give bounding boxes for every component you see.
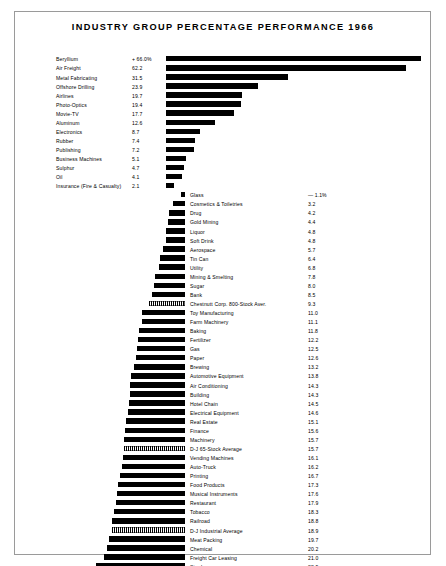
- bar-value-label: 7.8: [308, 273, 315, 281]
- chart-bar: [166, 156, 186, 161]
- bar-value-label: 7.4: [132, 137, 139, 145]
- chart-bar: [152, 292, 185, 297]
- chart-row: Chemical20.2: [0, 544, 446, 553]
- chart-row: Freight Car Leasing21.0: [0, 553, 446, 562]
- chart-bar: [123, 455, 185, 460]
- chart-row: Paper12.6: [0, 354, 446, 363]
- chart-row: Air Freight62.2: [0, 64, 446, 73]
- chart-bar: [124, 437, 185, 442]
- bar-category-label: Railroad: [190, 517, 210, 525]
- bar-value-label: 15.6: [308, 427, 318, 435]
- chart-row: Tin Can6.4: [0, 254, 446, 263]
- bar-category-label: Cosmetics & Toiletries: [190, 200, 243, 208]
- chart-row: Electronics8.7: [0, 127, 446, 136]
- bar-category-label: Hotel Chain: [190, 400, 218, 408]
- chart-row: Finance15.6: [0, 426, 446, 435]
- chart-row: Bank8.5: [0, 291, 446, 300]
- chart-bar: [149, 301, 185, 306]
- bar-category-label: Vending Machines: [190, 454, 234, 462]
- bar-value-label: 15.7: [308, 436, 318, 444]
- chart-bar: [114, 509, 185, 514]
- chart-row: Glass— 1.1%: [0, 191, 446, 200]
- chart-bar: [104, 554, 185, 559]
- chart-bar: [128, 409, 185, 414]
- bar-category-label: Gas: [190, 345, 200, 353]
- chart-bar: [116, 500, 185, 505]
- chart-row: Brewing13.2: [0, 363, 446, 372]
- bar-category-label: Restaurant: [190, 499, 216, 507]
- bar-value-label: 21.0: [308, 554, 318, 562]
- chart-bar: [166, 110, 234, 115]
- chart-row: Building14.3: [0, 390, 446, 399]
- bar-category-label: Glass: [190, 191, 204, 199]
- bar-value-label: 8.0: [308, 282, 315, 290]
- chart-bar: [173, 201, 185, 206]
- bar-category-label: Toy Manufacturing: [190, 309, 234, 317]
- bar-value-label: 8.7: [132, 128, 139, 136]
- chart-bar: [109, 536, 185, 541]
- chart-row: Food Products17.3: [0, 481, 446, 490]
- bar-value-label: 12.5: [308, 345, 318, 353]
- chart-bar: [137, 346, 185, 351]
- bar-category-label: Electronics: [56, 128, 82, 136]
- bar-value-label: 20.2: [308, 545, 318, 553]
- bar-category-label: Chestnutt Corp. 800-Stock Aver.: [190, 300, 266, 308]
- chart-bar: [169, 210, 185, 215]
- bar-category-label: Automotive Equipment: [190, 372, 244, 380]
- chart-bar: [166, 120, 215, 125]
- chart-row: Gas12.5: [0, 345, 446, 354]
- chart-row: Vending Machines16.1: [0, 454, 446, 463]
- bar-value-label: 18.9: [308, 527, 318, 535]
- chart-bar: [118, 482, 185, 487]
- bar-value-label: 4.7: [132, 164, 139, 172]
- chart-bar: [129, 400, 185, 405]
- chart-bar: [122, 464, 185, 469]
- bar-value-label: 17.9: [308, 499, 318, 507]
- chart-bar: [134, 364, 185, 369]
- chart-row: Fertilizer12.2: [0, 336, 446, 345]
- bar-value-label: 2.1: [132, 182, 139, 190]
- chart-row: Photo-Optics19.4: [0, 100, 446, 109]
- bar-category-label: Utility: [190, 264, 203, 272]
- bar-category-label: Aluminum: [56, 119, 80, 127]
- bar-value-label: 16.2: [308, 463, 318, 471]
- bar-value-label: 17.6: [308, 490, 318, 498]
- chart-row: Machinery15.7: [0, 436, 446, 445]
- bar-category-label: Photo-Optics: [56, 101, 87, 109]
- chart-bar: [154, 283, 185, 288]
- chart-bar: [136, 355, 185, 360]
- bar-category-label: Farm Machinery: [190, 318, 228, 326]
- bar-value-label: 31.5: [132, 74, 142, 82]
- chart-row: Liquor4.8: [0, 227, 446, 236]
- bar-category-label: Real Estate: [190, 418, 218, 426]
- chart-row: Chestnutt Corp. 800-Stock Aver.9.3: [0, 300, 446, 309]
- bar-value-label: 8.5: [308, 291, 315, 299]
- chart-row: Airlines19.7: [0, 91, 446, 100]
- bar-category-label: Sulphur: [56, 164, 74, 172]
- bar-value-label: 4.8: [308, 228, 315, 236]
- chart-row: Gold Mining4.4: [0, 218, 446, 227]
- bar-value-label: 12.6: [132, 119, 142, 127]
- chart-bar: [166, 147, 194, 152]
- chart-row: Hotel Chain14.5: [0, 399, 446, 408]
- chart-bar: [124, 446, 185, 451]
- bar-value-label: 23.9: [132, 83, 142, 91]
- chart-bar: [166, 174, 182, 179]
- bar-category-label: Rubber: [56, 137, 73, 145]
- bar-value-label: 17.7: [132, 110, 142, 118]
- chart-bar: [112, 527, 185, 532]
- bar-value-label: 4.8: [308, 237, 315, 245]
- chart-bar: [155, 274, 185, 279]
- chart-row: Publishing7.2: [0, 146, 446, 155]
- chart-row: Rubber7.4: [0, 137, 446, 146]
- bar-category-label: Airlines: [56, 92, 74, 100]
- chart-row: Utility6.8: [0, 263, 446, 272]
- bar-value-label: 12.2: [308, 336, 318, 344]
- bar-value-label: 19.7: [132, 92, 142, 100]
- bar-category-label: Soft Drink: [190, 237, 214, 245]
- chart-bar: [130, 391, 185, 396]
- bar-category-label: Food Products: [190, 481, 225, 489]
- bar-category-label: Movie-TV: [56, 110, 79, 118]
- bar-category-label: Insurance (Fire & Casualty): [56, 182, 121, 190]
- bar-value-label: 19.7: [308, 536, 318, 544]
